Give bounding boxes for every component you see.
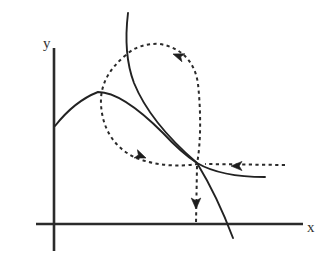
hump-nullcline-curve xyxy=(55,92,265,177)
x-axis-label: x xyxy=(307,220,315,235)
axes-group xyxy=(36,48,303,251)
dashed-incoming-ray-right xyxy=(205,164,285,165)
arrow-heads-group xyxy=(134,50,242,209)
dashed-trajectory-loop xyxy=(101,44,200,166)
phase-diagram-figure: y x xyxy=(0,0,334,263)
y-axis-label: y xyxy=(43,36,51,51)
arrow-left-icon xyxy=(231,161,242,170)
dashed-outgoing-ray-down xyxy=(196,166,197,224)
dashed-trajectory-group xyxy=(101,44,285,224)
solid-curves-group xyxy=(55,13,265,238)
